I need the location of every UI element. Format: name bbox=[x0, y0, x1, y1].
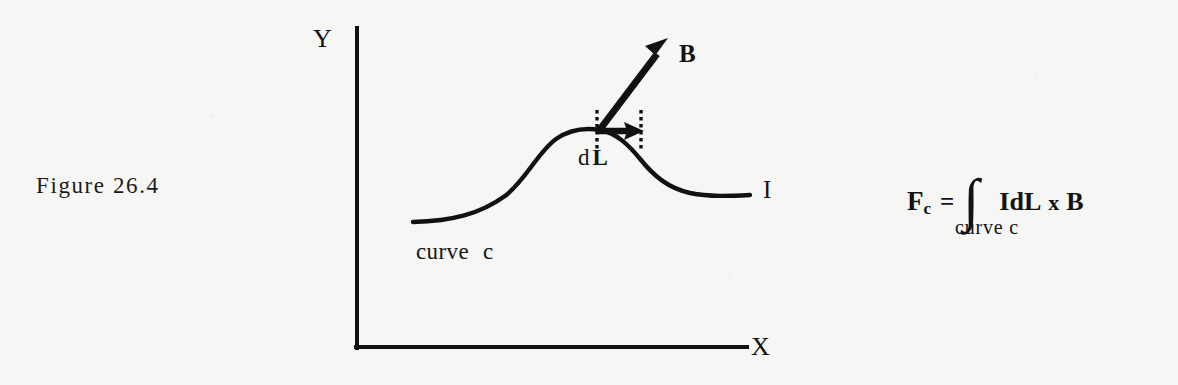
curve-c-name: c bbox=[483, 239, 494, 264]
equation-main-row: Fc = ∫ IdLxB bbox=[907, 186, 1084, 217]
equation-integral-limit: curve c bbox=[955, 216, 1019, 239]
integrand-L: L bbox=[1024, 187, 1041, 216]
equation-force-symbol: F bbox=[907, 186, 924, 217]
dl-label-L: L bbox=[593, 145, 608, 170]
integrand-current-I: I bbox=[999, 187, 1009, 216]
b-vector-shaft bbox=[598, 54, 657, 132]
force-equation: Fc = ∫ IdLxB curve c bbox=[907, 186, 1084, 217]
dl-vector-arrowhead bbox=[624, 122, 644, 140]
equation-equals-sign: = bbox=[940, 188, 954, 216]
equation-integrand: IdLxB bbox=[999, 187, 1083, 217]
integrand-B: B bbox=[1066, 187, 1083, 216]
equation-force-subscript: c bbox=[924, 199, 932, 219]
curve-c-word: curve bbox=[416, 239, 469, 264]
equation-cross-product-sign: x bbox=[1048, 190, 1059, 215]
dl-label-d: d bbox=[578, 145, 590, 170]
dl-segment-label: dL bbox=[578, 146, 608, 169]
equation-integral-wrapper: ∫ bbox=[963, 187, 993, 217]
curve-c-label: curvec bbox=[416, 240, 494, 263]
y-axis-label: Y bbox=[313, 26, 332, 52]
b-vector-arrowhead bbox=[645, 38, 668, 64]
current-label: I bbox=[763, 177, 771, 202]
figure-caption: Figure 26.4 bbox=[36, 173, 160, 199]
x-axis-label: X bbox=[751, 334, 770, 360]
curve-c-path bbox=[413, 129, 750, 222]
integrand-d: d bbox=[1009, 187, 1023, 216]
magnetic-field-vector-label: B bbox=[679, 41, 696, 66]
figure-page: Figure 26.4 Y X I B dL curvec Fc = bbox=[0, 0, 1178, 385]
